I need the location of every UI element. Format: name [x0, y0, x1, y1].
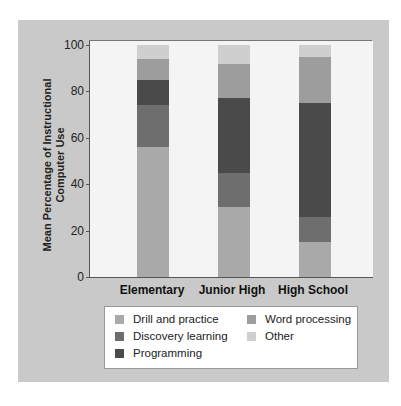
- legend-swatch-other: [247, 332, 256, 341]
- y-axis-label-line2: Computer Use: [54, 47, 67, 283]
- y-tick-label: 60: [60, 131, 84, 145]
- y-tick-label: 0: [60, 270, 84, 284]
- y-tick-mark: [86, 45, 90, 46]
- legend-label: Word processing: [265, 313, 351, 325]
- plot-area: [89, 41, 373, 278]
- bar-segment-discovery-learning: [137, 105, 169, 147]
- bar-segment-drill-and-practice: [299, 242, 331, 277]
- bar-segment-other: [218, 45, 250, 64]
- legend-item-programming: Programming: [115, 347, 202, 359]
- bar-segment-drill-and-practice: [218, 207, 250, 277]
- legend-label: Programming: [133, 347, 202, 359]
- y-tick-mark: [86, 184, 90, 185]
- y-tick-mark: [86, 277, 90, 278]
- y-axis-label: Mean Percentage of Instructional Compute…: [41, 47, 67, 283]
- y-tick-mark: [86, 91, 90, 92]
- legend-item-drill: Drill and practice: [115, 313, 219, 325]
- y-tick-mark: [86, 231, 90, 232]
- bar-junior-high: [218, 41, 250, 277]
- legend-item-word: Word processing: [247, 313, 351, 325]
- legend-swatch-drill: [115, 315, 124, 324]
- y-tick-label: 100: [60, 38, 84, 52]
- bar-elementary: [137, 41, 169, 277]
- legend-swatch-programming: [115, 349, 124, 358]
- plot-top-border: [89, 40, 372, 41]
- x-label-high-school: High School: [268, 283, 358, 297]
- bar-segment-programming: [299, 103, 331, 217]
- legend-swatch-discovery: [115, 332, 124, 341]
- bar-segment-word-processing: [137, 59, 169, 80]
- legend-label: Other: [265, 330, 294, 342]
- x-label-elementary: Elementary: [107, 283, 197, 297]
- bar-segment-other: [137, 45, 169, 59]
- bar-segment-discovery-learning: [299, 217, 331, 243]
- legend-label: Drill and practice: [133, 313, 219, 325]
- bar-high-school: [299, 41, 331, 277]
- bar-segment-discovery-learning: [218, 173, 250, 208]
- bar-segment-drill-and-practice: [137, 147, 169, 277]
- bar-segment-programming: [218, 98, 250, 172]
- legend: Drill and practice Discovery learning Pr…: [104, 306, 358, 369]
- y-tick-mark: [86, 138, 90, 139]
- bar-segment-programming: [137, 80, 169, 106]
- legend-item-other: Other: [247, 330, 294, 342]
- legend-swatch-word: [247, 315, 256, 324]
- y-tick-label: 40: [60, 177, 84, 191]
- x-label-junior-high: Junior High: [187, 283, 277, 297]
- legend-label: Discovery learning: [133, 330, 228, 342]
- bar-segment-other: [299, 45, 331, 57]
- y-tick-label: 80: [60, 84, 84, 98]
- bar-segment-word-processing: [299, 57, 331, 103]
- y-tick-label: 20: [60, 224, 84, 238]
- bar-segment-word-processing: [218, 64, 250, 99]
- legend-item-discovery: Discovery learning: [115, 330, 228, 342]
- y-axis-label-line1: Mean Percentage of Instructional: [41, 47, 54, 283]
